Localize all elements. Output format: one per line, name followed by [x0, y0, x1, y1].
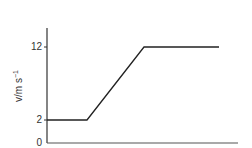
y-tick-label-0: 0: [22, 138, 42, 148]
y-axis-label-main: v/m s: [13, 78, 24, 102]
y-axis-label-exponent: −1: [12, 70, 19, 78]
y-tick-label-2: 2: [22, 115, 42, 125]
velocity-line: [47, 47, 219, 120]
y-tick-label-12: 12: [22, 42, 42, 52]
chart-plot: [0, 0, 252, 148]
y-axis-label: v/m s−1: [12, 70, 24, 102]
